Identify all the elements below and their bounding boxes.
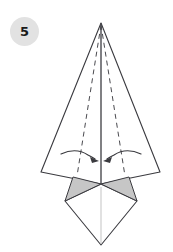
step-number-label: 5 xyxy=(20,25,29,38)
step-number-badge: 5 xyxy=(10,17,39,46)
origami-step-figure: 5 xyxy=(0,0,173,252)
